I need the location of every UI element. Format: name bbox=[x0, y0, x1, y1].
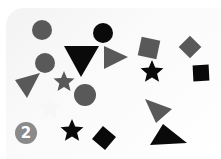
number-badge: 2 bbox=[15, 122, 37, 144]
gray-circle-shape bbox=[35, 53, 55, 73]
black-triangle-shape bbox=[150, 124, 187, 145]
gray-circle-shape bbox=[32, 20, 52, 40]
black-star-shape bbox=[61, 119, 84, 141]
black-square-shape bbox=[92, 126, 116, 150]
faint-white-star-shape bbox=[39, 96, 62, 118]
gray-triangle-shape bbox=[145, 99, 172, 123]
black-circle-shape bbox=[93, 23, 113, 43]
black-square-shape bbox=[193, 65, 210, 82]
gray-star-shape bbox=[54, 71, 75, 91]
gray-square-shape bbox=[179, 36, 202, 59]
shape-layer bbox=[15, 20, 209, 150]
gray-triangle-shape bbox=[15, 73, 40, 98]
black-triangle-shape bbox=[64, 46, 99, 77]
gray-triangle-shape bbox=[104, 46, 128, 69]
black-star-shape bbox=[141, 60, 164, 82]
gray-circle-shape bbox=[74, 84, 96, 106]
gray-square-shape bbox=[138, 37, 161, 60]
badge-label: 2 bbox=[21, 124, 31, 142]
